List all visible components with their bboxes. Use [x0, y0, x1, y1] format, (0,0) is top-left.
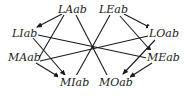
node-loab: LOab — [148, 27, 179, 40]
node-miab: MIab — [59, 76, 89, 89]
node-liab: LIab — [11, 27, 37, 40]
node-laab: LAab — [57, 3, 87, 16]
node-leab: LEab — [98, 3, 128, 16]
edge-meab-moab-arrow — [130, 63, 152, 77]
node-meab: MEab — [146, 51, 180, 64]
edge-leab-meab-arrow — [120, 16, 151, 51]
edges — [33, 14, 155, 77]
center-crossing-point — [92, 46, 94, 48]
node-maab: MAab — [7, 51, 41, 64]
edge-laab-moab — [76, 15, 107, 75]
edge-maab-loab — [40, 36, 148, 61]
node-moab: MOab — [98, 76, 133, 89]
edge-maab-miab-arrow — [36, 63, 59, 77]
syllogism-diagram: LAab LEab LIab LOab MAab MEab MIab MOab — [0, 0, 187, 96]
